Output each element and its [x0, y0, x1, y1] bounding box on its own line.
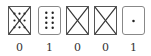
- card-1-label: 0: [8, 42, 31, 54]
- card-2-label: 1: [38, 42, 61, 54]
- cross-icon: [67, 7, 88, 34]
- card-4: [94, 6, 117, 35]
- card-5: [122, 6, 145, 35]
- card-1: [8, 6, 31, 35]
- card-5-label: 1: [122, 42, 145, 54]
- cross-icon: [95, 7, 116, 34]
- eight-dots-icon: [39, 7, 60, 34]
- card-3: [66, 6, 89, 35]
- card-2: [38, 6, 61, 35]
- single-dot-icon: [123, 7, 144, 34]
- card-4-label: 0: [94, 42, 117, 54]
- card-3-label: 0: [66, 42, 89, 54]
- cross-icon: [9, 7, 30, 34]
